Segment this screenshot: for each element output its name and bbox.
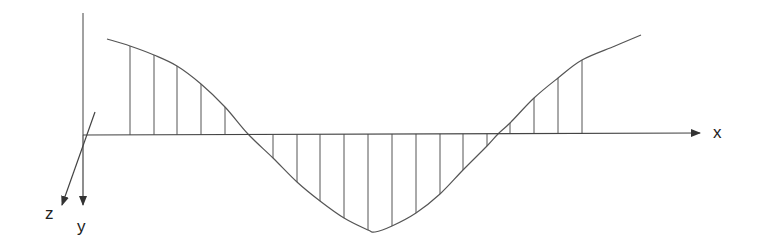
- x-axis-label: x: [713, 124, 722, 141]
- z-axis-label: z: [45, 205, 54, 222]
- diagram-canvas: [0, 0, 757, 251]
- y-axis-label: y: [77, 218, 86, 235]
- z-axis: [62, 112, 95, 205]
- hatch-lines: [130, 46, 582, 230]
